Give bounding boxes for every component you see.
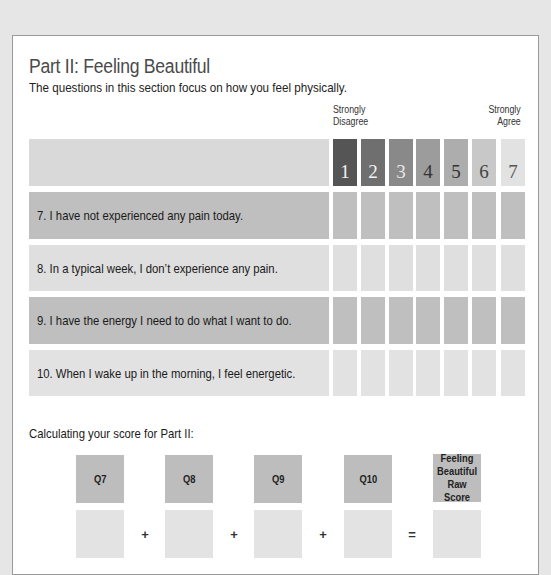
- score-input-box-3[interactable]: [254, 510, 302, 558]
- answer-cell-q9-2[interactable]: [361, 297, 385, 344]
- score-label-text: Feeling Beautiful Raw Score: [437, 452, 478, 504]
- plus-sign: +: [317, 527, 329, 542]
- question-row-9: 9. I have the energy I need to do what I…: [29, 297, 329, 344]
- survey-page: Part II: Feeling Beautiful The questions…: [12, 35, 539, 575]
- question-text: 7. I have not experienced any pain today…: [37, 208, 243, 223]
- score-label-box-2: Q8: [165, 455, 213, 503]
- scale-right-line1: Strongly: [488, 104, 520, 116]
- section-subtitle: The questions in this section focus on h…: [29, 80, 347, 95]
- scale-point-6: 6: [472, 139, 496, 186]
- answer-cell-q10-5[interactable]: [444, 350, 468, 396]
- answer-cell-q8-1[interactable]: [333, 245, 357, 291]
- score-label-box-5: Feeling Beautiful Raw Score: [433, 454, 481, 502]
- question-row-10: 10. When I wake up in the morning, I fee…: [29, 350, 329, 396]
- answer-cell-q10-6[interactable]: [472, 350, 496, 396]
- answer-cell-q9-5[interactable]: [444, 297, 468, 344]
- answer-cell-q10-7[interactable]: [501, 350, 525, 396]
- answer-cell-q7-5[interactable]: [444, 192, 468, 239]
- answer-cell-q8-3[interactable]: [389, 245, 413, 291]
- scale-point-7: 7: [501, 139, 525, 186]
- plus-sign: +: [139, 527, 151, 542]
- answer-cell-q8-6[interactable]: [472, 245, 496, 291]
- scale-label-strongly-agree: Strongly Agree: [488, 104, 520, 128]
- question-row-8: 8. In a typical week, I don’t experience…: [29, 245, 329, 291]
- scale-point-5: 5: [444, 139, 468, 186]
- scale-left-line1: Strongly: [333, 104, 368, 116]
- answer-cell-q7-4[interactable]: [416, 192, 440, 239]
- question-text: 9. I have the energy I need to do what I…: [37, 313, 292, 328]
- answer-cell-q9-7[interactable]: [501, 297, 525, 344]
- answer-cell-q10-3[interactable]: [389, 350, 413, 396]
- scale-right-line2: Agree: [488, 116, 520, 128]
- answer-cell-q8-7[interactable]: [501, 245, 525, 291]
- scale-header-blank: [29, 139, 329, 186]
- score-label-text: Q8: [183, 473, 195, 486]
- scale-point-1: 1: [333, 139, 357, 186]
- score-label-box-4: Q10: [344, 455, 392, 503]
- scale-point-3: 3: [389, 139, 413, 186]
- scale-point-4: 4: [416, 139, 440, 186]
- score-input-box-4[interactable]: [344, 510, 392, 558]
- answer-cell-q9-1[interactable]: [333, 297, 357, 344]
- answer-cell-q8-2[interactable]: [361, 245, 385, 291]
- section-title: Part II: Feeling Beautiful: [29, 55, 210, 78]
- answer-cell-q7-2[interactable]: [361, 192, 385, 239]
- answer-cell-q7-3[interactable]: [389, 192, 413, 239]
- score-label-text: Q10: [359, 473, 377, 486]
- equals-sign: =: [406, 527, 418, 542]
- answer-cell-q8-4[interactable]: [416, 245, 440, 291]
- answer-cell-q10-4[interactable]: [416, 350, 440, 396]
- score-label-box-1: Q7: [76, 455, 124, 503]
- question-text: 8. In a typical week, I don’t experience…: [37, 261, 278, 276]
- scale-label-strongly-disagree: Strongly Disagree: [333, 104, 368, 128]
- score-input-box-1[interactable]: [76, 510, 124, 558]
- score-input-box-2[interactable]: [165, 510, 213, 558]
- answer-cell-q7-1[interactable]: [333, 192, 357, 239]
- answer-cell-q9-3[interactable]: [389, 297, 413, 344]
- score-label-text: Q7: [94, 473, 106, 486]
- scale-left-line2: Disagree: [333, 116, 368, 128]
- score-input-box-5[interactable]: [433, 510, 481, 558]
- score-label-box-3: Q9: [254, 455, 302, 503]
- answer-cell-q9-4[interactable]: [416, 297, 440, 344]
- answer-cell-q9-6[interactable]: [472, 297, 496, 344]
- plus-sign: +: [228, 527, 240, 542]
- calculation-label: Calculating your score for Part II:: [29, 426, 194, 441]
- scale-point-2: 2: [361, 139, 385, 186]
- question-text: 10. When I wake up in the morning, I fee…: [37, 366, 295, 381]
- answer-cell-q7-7[interactable]: [501, 192, 525, 239]
- answer-cell-q10-2[interactable]: [361, 350, 385, 396]
- answer-cell-q8-5[interactable]: [444, 245, 468, 291]
- answer-cell-q10-1[interactable]: [333, 350, 357, 396]
- answer-cell-q7-6[interactable]: [472, 192, 496, 239]
- question-row-7: 7. I have not experienced any pain today…: [29, 192, 329, 239]
- score-label-text: Q9: [272, 473, 284, 486]
